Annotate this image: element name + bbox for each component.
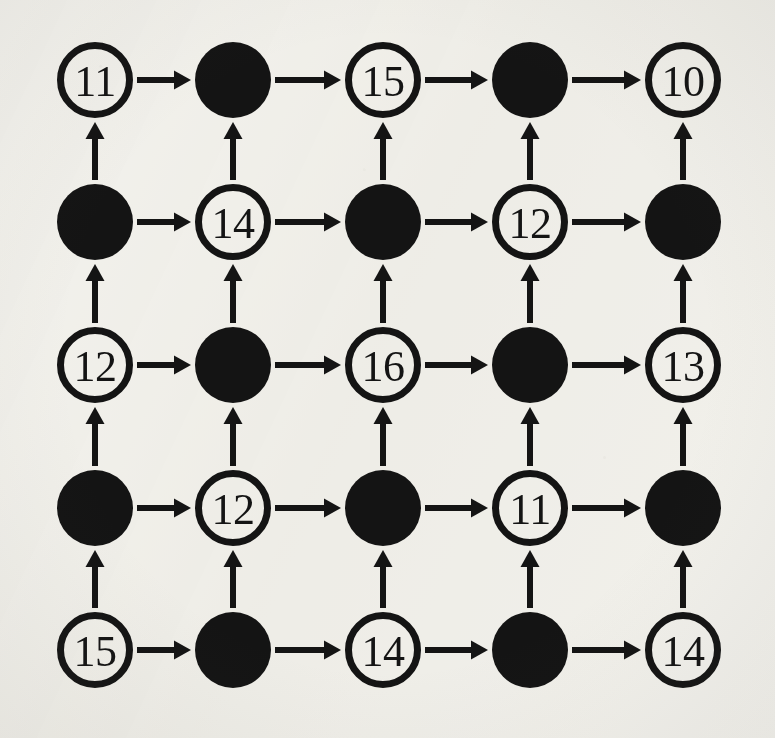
upward-arrow	[86, 407, 105, 466]
upward-arrow	[674, 407, 693, 466]
upward-arrow	[374, 550, 393, 608]
filled-circle-vertex[interactable]	[195, 42, 271, 118]
vertex-label: 15	[74, 627, 117, 676]
upward-arrow	[224, 264, 243, 323]
filled-circle-vertex[interactable]	[492, 327, 568, 403]
vertex-label: 10	[662, 57, 705, 106]
vertex-label: 11	[509, 485, 550, 534]
upward-arrow	[521, 122, 540, 180]
rightward-arrow	[275, 213, 341, 232]
vertex-label: 14	[662, 627, 706, 676]
vertex-label: 14	[212, 199, 256, 248]
rightward-arrow	[572, 499, 641, 518]
upward-arrow	[374, 264, 393, 323]
upward-arrow	[674, 122, 693, 180]
filled-circle-vertex[interactable]	[195, 327, 271, 403]
open-circle-vertex[interactable]: 13	[649, 331, 718, 400]
open-circle-vertex[interactable]: 14	[649, 616, 718, 685]
vertex-label: 14	[362, 627, 406, 676]
filled-circle-vertex[interactable]	[57, 470, 133, 546]
filled-circle-vertex[interactable]	[492, 42, 568, 118]
rightward-arrow	[137, 213, 191, 232]
rightward-arrow	[137, 356, 191, 375]
rightward-arrow	[425, 499, 488, 518]
open-circle-vertex[interactable]: 12	[199, 474, 268, 543]
upward-arrow	[674, 550, 693, 608]
rightward-arrow	[137, 71, 191, 90]
rightward-arrow	[275, 641, 341, 660]
upward-arrow	[521, 550, 540, 608]
rightward-arrow	[425, 356, 488, 375]
rightward-arrow	[572, 71, 641, 90]
vertex-label: 13	[662, 342, 705, 391]
open-circle-vertex[interactable]: 14	[199, 188, 268, 257]
filled-circle-vertex[interactable]	[195, 612, 271, 688]
rightward-arrow	[275, 71, 341, 90]
filled-circle-vertex[interactable]	[645, 184, 721, 260]
rightward-arrow	[572, 356, 641, 375]
rightward-arrow	[275, 499, 341, 518]
open-circle-vertex[interactable]: 12	[61, 331, 130, 400]
upward-arrow	[674, 264, 693, 323]
rightward-arrow	[137, 499, 191, 518]
rightward-arrow	[425, 71, 488, 90]
filled-circle-vertex[interactable]	[57, 184, 133, 260]
filled-circle-vertex[interactable]	[645, 470, 721, 546]
upward-arrow	[86, 550, 105, 608]
upward-arrow	[224, 550, 243, 608]
rightward-arrow	[425, 641, 488, 660]
vertex-label: 11	[74, 57, 115, 106]
upward-arrow	[86, 264, 105, 323]
open-circle-vertex[interactable]: 15	[349, 46, 418, 115]
vertex-label: 12	[212, 485, 255, 534]
upward-arrow	[374, 122, 393, 180]
vertex-label: 15	[362, 57, 405, 106]
vertex-label: 12	[509, 199, 552, 248]
upward-arrow	[521, 407, 540, 466]
grid-graph-canvas: 11151014121216131211151414	[0, 0, 775, 738]
upward-arrow	[224, 122, 243, 180]
upward-arrow	[86, 122, 105, 180]
rightward-arrow	[572, 213, 641, 232]
filled-circle-vertex[interactable]	[345, 184, 421, 260]
upward-arrow	[224, 407, 243, 466]
vertex-label: 16	[362, 342, 405, 391]
vertex-label: 12	[74, 342, 117, 391]
rightward-arrow	[425, 213, 488, 232]
open-circle-vertex[interactable]: 14	[349, 616, 418, 685]
open-circle-vertex[interactable]: 12	[496, 188, 565, 257]
open-circle-vertex[interactable]: 15	[61, 616, 130, 685]
filled-circle-vertex[interactable]	[492, 612, 568, 688]
open-circle-vertex[interactable]: 11	[61, 46, 130, 115]
upward-arrow	[521, 264, 540, 323]
open-circle-vertex[interactable]: 11	[496, 474, 565, 543]
open-circle-vertex[interactable]: 16	[349, 331, 418, 400]
rightward-arrow	[275, 356, 341, 375]
open-circle-vertex[interactable]: 10	[649, 46, 718, 115]
filled-circle-vertex[interactable]	[345, 470, 421, 546]
upward-arrow	[374, 407, 393, 466]
rightward-arrow	[137, 641, 191, 660]
figure-root: 11151014121216131211151414	[0, 0, 775, 738]
rightward-arrow	[572, 641, 641, 660]
